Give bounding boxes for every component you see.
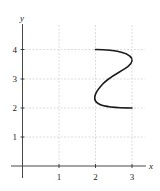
y-tick-label: 3 (13, 74, 18, 84)
y-tick-label: 1 (13, 132, 18, 142)
chart: 1 2 3 1 2 3 4 x y (0, 0, 160, 191)
x-tick-label: 3 (130, 172, 135, 182)
gridlines (22, 25, 145, 166)
y-axis-label: y (19, 13, 24, 23)
x-tick-label: 1 (57, 172, 62, 182)
x-axis-label: x (148, 161, 153, 171)
x-tick-label: 2 (93, 172, 98, 182)
axes (11, 24, 146, 178)
y-tick-label: 4 (13, 45, 18, 55)
y-tick-label: 2 (13, 103, 18, 113)
